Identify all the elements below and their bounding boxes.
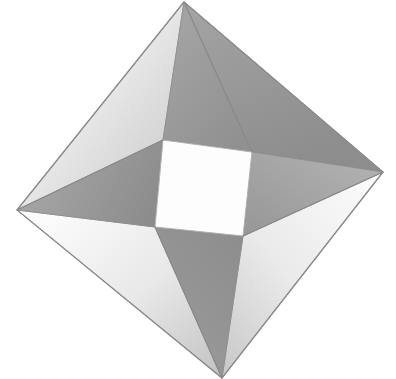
geometric-figure-canvas: Pythagorean pinwheel square figure: [0, 0, 396, 379]
inner-white-square: [155, 140, 252, 236]
